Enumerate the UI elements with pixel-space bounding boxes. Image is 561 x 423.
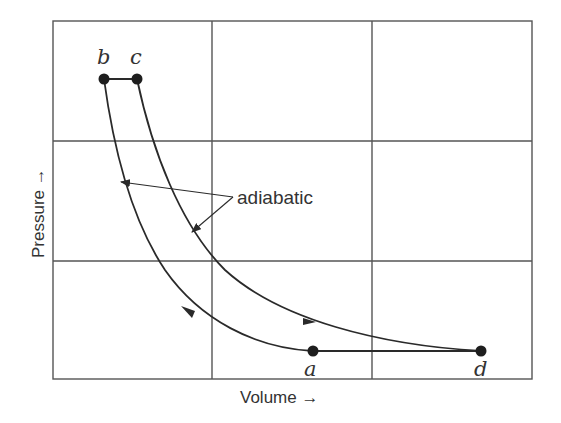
point-b — [99, 74, 110, 85]
point-c — [132, 74, 143, 85]
adiabatic-curve-a-b — [104, 79, 313, 351]
adiabatic-label: adiabatic — [237, 187, 313, 208]
annotation-leaders — [121, 182, 233, 232]
point-label-d: d — [474, 357, 487, 381]
point-label-b: b — [97, 45, 110, 69]
y-axis-label: Pressure → — [29, 168, 48, 258]
x-axis-label: Volume → — [240, 388, 318, 407]
point-d — [476, 346, 487, 357]
pv-diagram: adiabatic b c a d Volume → Pressure → — [0, 0, 561, 423]
leader-arrow-icon — [121, 182, 233, 197]
point-label-c: c — [130, 45, 142, 69]
point-label-a: a — [304, 357, 317, 381]
state-points — [99, 74, 487, 357]
cycle-paths — [104, 79, 481, 351]
direction-arrow-icon — [181, 306, 195, 318]
point-a — [308, 346, 319, 357]
